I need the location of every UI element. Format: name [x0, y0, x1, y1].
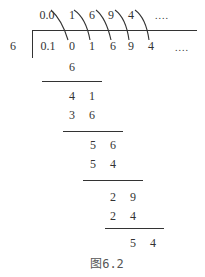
subtraction-line [63, 131, 123, 132]
arc-icon [135, 10, 149, 40]
step-digit: 5 [90, 139, 96, 151]
step-digit: 2 [110, 210, 116, 222]
step-digit: 4 [130, 210, 136, 222]
arc-icon [74, 10, 90, 40]
step-digit: 4 [69, 90, 75, 102]
step-digit: 4 [150, 237, 156, 249]
step-digit: 4 [110, 158, 116, 170]
arc-icon [115, 10, 129, 40]
step-digit: 6 [110, 139, 116, 151]
step-digit: 6 [89, 109, 95, 121]
arc-icon [51, 10, 68, 40]
arc-icon [96, 10, 111, 40]
step-digit: 1 [89, 90, 95, 102]
step-digit: 5 [130, 237, 136, 249]
step-digit: 6 [69, 61, 75, 73]
step-digit: 5 [90, 158, 96, 170]
figure-caption: 图6.2 [90, 258, 124, 270]
digit-link-arcs [0, 0, 205, 60]
step-digit: 9 [130, 191, 136, 203]
subtraction-line [83, 180, 143, 181]
subtraction-line [105, 228, 164, 229]
step-digit: 2 [110, 191, 116, 203]
subtraction-line [42, 81, 102, 82]
step-digit: 3 [69, 109, 75, 121]
